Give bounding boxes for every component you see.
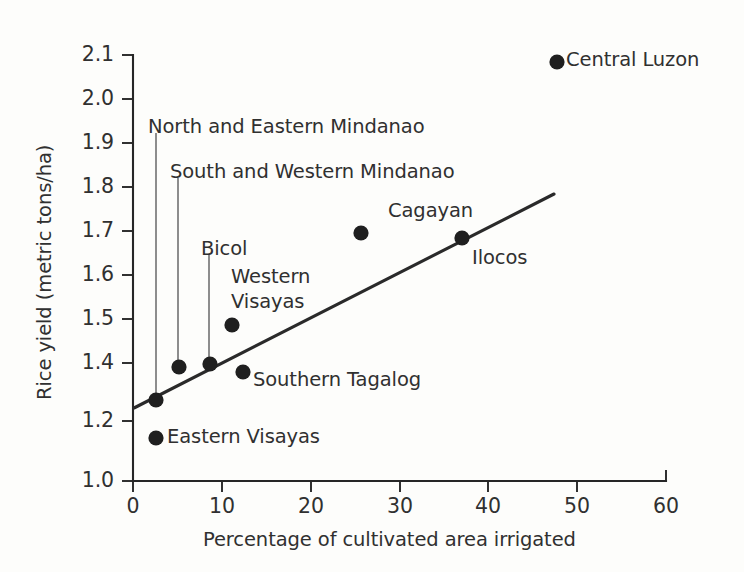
point-western-visayas — [224, 317, 239, 332]
x-tick-label-0: 0 — [109, 494, 157, 518]
label-cagayan: Cagayan — [388, 199, 473, 222]
y-axis-title: Rice yield (metric tons/ha) — [33, 145, 56, 400]
label-bicol: Bicol — [201, 237, 247, 260]
y-tick-label-2-0: 2.0 — [56, 86, 114, 110]
label-central-luzon: Central Luzon — [566, 48, 699, 71]
y-tick-label-1-7: 1.7 — [56, 218, 114, 242]
label-western-visayas-line2: Visayas — [231, 290, 304, 313]
y-tick-marks — [122, 55, 133, 481]
point-bicol — [202, 356, 217, 371]
y-tick-label-1-5: 1.5 — [56, 306, 114, 330]
point-north-and-eastern-mindanao — [148, 392, 163, 407]
y-tick-label-1-9: 1.9 — [56, 130, 114, 154]
x-tick-label-10: 10 — [198, 494, 246, 518]
y-tick-label-1-8: 1.8 — [56, 174, 114, 198]
point-southern-tagalog — [235, 364, 250, 379]
scatter-chart-figure: 2.1 2.0 1.9 1.8 1.7 1.6 1.5 1.4 1.2 1.0 … — [0, 0, 744, 572]
y-tick-label-1-6: 1.6 — [56, 262, 114, 286]
y-tick-label-2-1: 2.1 — [56, 42, 114, 66]
x-tick-label-20: 20 — [287, 494, 335, 518]
label-southern-tagalog: Southern Tagalog — [253, 368, 421, 391]
point-ilocos — [454, 230, 469, 245]
point-cagayan — [353, 225, 368, 240]
y-tick-label-1-2: 1.2 — [56, 408, 114, 432]
label-eastern-visayas: Eastern Visayas — [167, 425, 320, 448]
point-central-luzon — [549, 54, 564, 69]
y-tick-label-1-4: 1.4 — [56, 350, 114, 374]
x-tick-label-50: 50 — [553, 494, 601, 518]
x-axis-title: Percentage of cultivated area irrigated — [203, 528, 576, 551]
point-eastern-visayas — [148, 430, 163, 445]
x-tick-label-40: 40 — [464, 494, 512, 518]
x-tick-label-30: 30 — [376, 494, 424, 518]
label-south-and-western-mindanao: South and Western Mindanao — [170, 160, 455, 183]
label-western-visayas-line1: Western — [231, 265, 310, 288]
point-south-and-western-mindanao — [171, 359, 186, 374]
x-tick-label-60: 60 — [642, 494, 690, 518]
label-ilocos: Ilocos — [472, 246, 527, 269]
label-north-and-eastern-mindanao: North and Eastern Mindanao — [148, 115, 425, 138]
y-tick-label-1-0: 1.0 — [56, 468, 114, 492]
